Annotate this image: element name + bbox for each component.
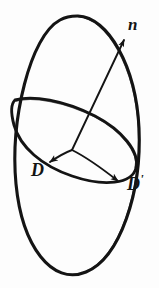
vector-d-arrow xyxy=(50,150,72,162)
vector-d-prime-arrow xyxy=(72,150,118,181)
geometry-diagram-svg xyxy=(0,0,159,288)
label-normal-vector-n: n xyxy=(128,16,137,33)
prime-mark: ' xyxy=(140,171,144,186)
label-vector-d-prime: D' xyxy=(127,172,144,193)
normal-vector-n xyxy=(72,40,124,150)
figure-container: n D D' xyxy=(0,0,159,288)
label-d-prime-base: D xyxy=(127,174,140,194)
label-vector-d: D xyxy=(31,161,44,179)
outer-ellipse xyxy=(15,16,139,275)
